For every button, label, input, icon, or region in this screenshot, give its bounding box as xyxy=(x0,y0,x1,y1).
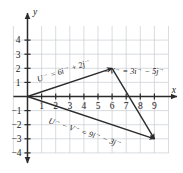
y-tick-label-1: 1 xyxy=(16,78,21,88)
y-axis-label: y xyxy=(32,7,38,17)
vector-negative-v-term2-arrow: → xyxy=(159,66,165,72)
vector-negative-v-label-group: −V→ = 3i→ − 5j→ xyxy=(104,66,165,76)
y-tick-label-neg1: −1 xyxy=(11,106,21,116)
x-axis-label: x xyxy=(171,85,177,95)
x-tick-label-6: 6 xyxy=(110,101,115,111)
x-tick-label-3: 3 xyxy=(67,101,72,111)
x-tick-labels: 1 2 3 4 5 6 7 8 9 xyxy=(39,101,157,111)
vector-diagram-figure: 1 2 3 4 5 6 7 8 9 4 3 2 1 −1 −2 −3 −4 y … xyxy=(0,0,183,173)
x-tick-label-9: 9 xyxy=(152,101,157,111)
y-tick-label-2: 2 xyxy=(16,64,21,74)
x-tick-label-8: 8 xyxy=(138,101,143,111)
x-tick-label-5: 5 xyxy=(96,101,101,111)
y-tick-label-neg2: −2 xyxy=(11,120,21,130)
x-tick-label-7: 7 xyxy=(124,101,129,111)
y-tick-label-4: 4 xyxy=(16,35,21,45)
y-tick-label-3: 3 xyxy=(16,50,21,60)
y-tick-label-neg3: −3 xyxy=(11,134,21,144)
x-tick-label-4: 4 xyxy=(82,101,87,111)
y-tick-label-neg4: −4 xyxy=(11,148,21,158)
vector-negative-v-label: −V→ = 3i→ − 5j→ xyxy=(104,66,165,76)
coordinate-plane-svg: 1 2 3 4 5 6 7 8 9 4 3 2 1 −1 −2 −3 −4 y … xyxy=(0,0,183,173)
